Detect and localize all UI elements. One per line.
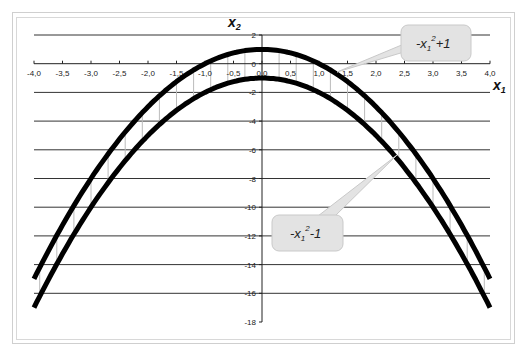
y-tick-label: -8 xyxy=(249,175,257,184)
y-tick-label: -14 xyxy=(244,261,256,270)
x-tick-label: 2,5 xyxy=(399,69,411,78)
y-axis-title: x2 xyxy=(227,14,241,32)
callout-bottom: -x12-1 xyxy=(272,155,397,251)
y-tick-label: -6 xyxy=(249,146,257,155)
x-tick-label: 1,0 xyxy=(313,69,325,78)
x-tick-label: -4,0 xyxy=(27,69,41,78)
plot-area: -4,0-3,5-3,0-2,5-2,0-1,5-1,0-0,50,00,51,… xyxy=(0,0,527,357)
x-tick-label: -0,5 xyxy=(227,69,241,78)
y-tick-label: -18 xyxy=(244,318,256,327)
y-tick-label: -16 xyxy=(244,289,256,298)
x-tick-label: -1,0 xyxy=(198,69,212,78)
y-tick-label: -10 xyxy=(244,203,256,212)
callout-top: -x12+1 xyxy=(337,25,471,72)
x-tick-label: 3,5 xyxy=(456,69,468,78)
x-tick-label: -2,0 xyxy=(141,69,155,78)
x-tick-label: 0,5 xyxy=(285,69,297,78)
chart-container: -4,0-3,5-3,0-2,5-2,0-1,5-1,0-0,50,00,51,… xyxy=(0,0,527,357)
x-tick-label: 2,0 xyxy=(370,69,382,78)
y-tick-label: 2 xyxy=(252,31,257,40)
x-tick-label: -3,0 xyxy=(84,69,98,78)
y-tick-label: -2 xyxy=(249,88,257,97)
x-tick-label: -2,5 xyxy=(113,69,127,78)
x-tick-label: 3,0 xyxy=(427,69,439,78)
y-tick-label: 0 xyxy=(252,60,257,69)
x-tick-label: -3,5 xyxy=(56,69,70,78)
y-tick-label: -4 xyxy=(249,117,257,126)
y-tick-label: -12 xyxy=(244,232,256,241)
x-axis-title: x1 xyxy=(492,77,506,95)
callout-bottom-box xyxy=(272,215,343,251)
